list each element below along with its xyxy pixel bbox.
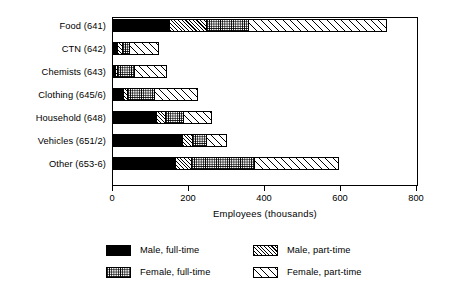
legend-item-male-full-time: Male, full-time [106, 245, 199, 256]
bar-segment [248, 19, 387, 32]
bar-segment [113, 19, 170, 32]
bar-segment [134, 65, 167, 78]
bar-segment [129, 42, 160, 55]
x-tick-label-4: 800 [408, 193, 424, 204]
legend-item-female-full-time: Female, full-time [106, 267, 210, 278]
bar-row-0 [113, 19, 390, 32]
bar-segment [127, 88, 155, 101]
legend-swatch-male-full-time-icon [106, 245, 131, 256]
y-axis-label-6: Other (653-6) [0, 159, 106, 169]
bars-layer [113, 18, 417, 185]
bar-row-1 [113, 42, 162, 55]
x-tick-2 [264, 186, 265, 191]
y-axis-category-labels: Food (641) CTN (642) Chemists (643) Clot… [0, 17, 106, 186]
x-tick-label-2: 400 [256, 193, 272, 204]
bar-segment [113, 157, 176, 170]
y-axis-label-5: Vehicles (651/2) [0, 136, 106, 146]
bar-segment [183, 111, 213, 124]
bar-row-6 [113, 157, 342, 170]
legend-item-female-part-time: Female, part-time [253, 267, 362, 278]
bar-segment [206, 134, 227, 147]
legend-label-male-part-time: Male, part-time [287, 245, 351, 256]
bar-segment [113, 111, 157, 124]
x-tick-label-3: 600 [332, 193, 348, 204]
bar-segment [113, 134, 183, 147]
y-axis-label-2: Chemists (643) [0, 67, 106, 77]
x-axis-tick-labels: 0 200 400 600 800 [0, 193, 452, 205]
bar-segment [175, 157, 192, 170]
bar-segment [117, 65, 135, 78]
y-axis-label-4: Household (648) [0, 113, 106, 123]
legend-swatch-female-full-time-icon [106, 267, 131, 278]
chart-legend: Male, full-time Male, part-time Female, … [106, 245, 406, 287]
legend-item-male-part-time: Male, part-time [253, 245, 351, 256]
x-tick-label-1: 200 [180, 193, 196, 204]
bar-segment [206, 19, 249, 32]
x-tick-1 [188, 186, 189, 191]
legend-swatch-female-part-time-icon [253, 267, 278, 278]
x-tick-4 [416, 186, 417, 191]
bar-row-3 [113, 88, 201, 101]
bar-segment [192, 134, 208, 147]
y-axis-label-1: CTN (642) [0, 44, 106, 54]
x-tick-label-0: 0 [109, 193, 114, 204]
bar-segment [169, 19, 207, 32]
x-axis-title: Employees (thousands) [112, 208, 418, 219]
y-axis-label-3: Clothing (645/6) [0, 90, 106, 100]
y-axis-label-0: Food (641) [0, 21, 106, 31]
x-axis-ticks [112, 186, 418, 192]
bar-segment [254, 157, 339, 170]
bar-row-2 [113, 65, 170, 78]
bar-segment [154, 88, 198, 101]
bar-segment [165, 111, 184, 124]
x-tick-3 [340, 186, 341, 191]
legend-label-female-full-time: Female, full-time [140, 267, 210, 278]
legend-label-female-part-time: Female, part-time [287, 267, 362, 278]
legend-swatch-male-part-time-icon [253, 245, 278, 256]
bar-row-4 [113, 111, 215, 124]
bar-row-5 [113, 134, 230, 147]
x-tick-0 [112, 186, 113, 191]
legend-label-male-full-time: Male, full-time [140, 245, 199, 256]
bar-segment [191, 157, 254, 170]
stacked-bar-chart: Food (641) CTN (642) Chemists (643) Clot… [0, 0, 452, 297]
